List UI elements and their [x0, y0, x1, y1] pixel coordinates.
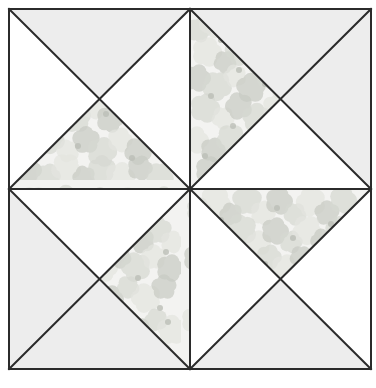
quilt-linework [9, 9, 371, 369]
quilt-block-canvas [0, 0, 376, 388]
quilt-pattern-diagram [0, 0, 376, 388]
